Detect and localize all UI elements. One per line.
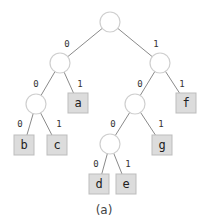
leaf-node-g: g — [152, 135, 172, 155]
leaf-label: d — [95, 177, 102, 191]
edge-label: 1 — [56, 119, 61, 129]
edge-label: 0 — [17, 119, 22, 129]
edge-label: 1 — [158, 119, 163, 129]
tree-svg: 010101010101 afbcgde (a) — [0, 0, 214, 223]
figure-caption: (a) — [96, 203, 113, 217]
leaf-node-f: f — [176, 93, 196, 113]
leaf-label: f — [182, 96, 189, 110]
internal-node — [150, 53, 170, 73]
edges-layer — [24, 22, 186, 184]
internal-node — [50, 53, 70, 73]
edge-label: 1 — [153, 39, 158, 49]
edge-label: 0 — [137, 79, 142, 89]
leaf-label: e — [122, 177, 129, 191]
edge-label: 1 — [77, 79, 82, 89]
leaf-node-b: b — [14, 135, 34, 155]
leaf-label: b — [20, 138, 27, 152]
internal-node — [125, 94, 145, 114]
leaf-label: g — [158, 138, 165, 152]
internal-node — [100, 134, 120, 154]
leaf-label: c — [53, 138, 60, 152]
leaf-node-c: c — [47, 135, 67, 155]
internal-node — [100, 12, 120, 32]
edge-label: 0 — [64, 39, 69, 49]
edge-label: 0 — [93, 159, 98, 169]
leaf-node-e: e — [116, 174, 136, 194]
leaf-label: a — [74, 96, 81, 110]
edge-label: 0 — [33, 79, 38, 89]
leaf-node-a: a — [68, 93, 88, 113]
nodes-layer: afbcgde — [14, 12, 196, 194]
edge-label: 1 — [179, 79, 184, 89]
leaf-node-d: d — [89, 174, 109, 194]
internal-node — [26, 94, 46, 114]
tree-diagram: 010101010101 afbcgde (a) — [0, 0, 214, 223]
edge-label: 0 — [110, 119, 115, 129]
edge-label: 1 — [125, 159, 130, 169]
